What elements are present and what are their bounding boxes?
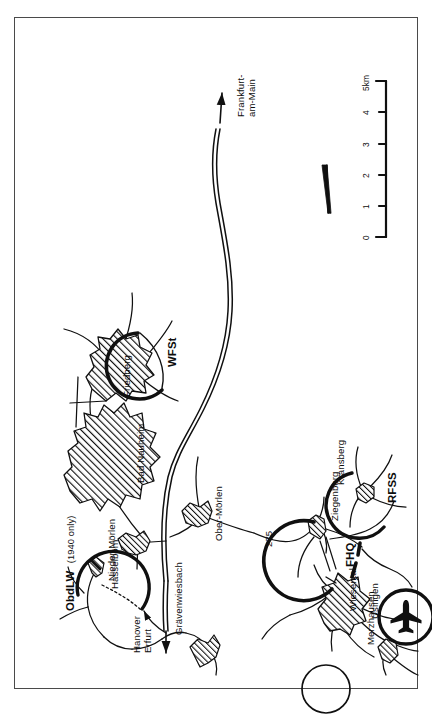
builtup-usingen: [318, 573, 370, 635]
place-label-ober-moerlen: Ober-Mörlen: [214, 486, 224, 541]
place-label-graevenwiesbach: Grävenwiesbach: [174, 562, 184, 635]
scale-tick-3: 3: [362, 142, 371, 147]
installation-label-obdlw: ObdLW: [64, 571, 76, 611]
installation-label-wfst: WFSt: [166, 338, 178, 368]
scale-bar: [376, 81, 386, 237]
autobahn-northwest: [163, 581, 168, 631]
figure-frame: Hanover Erfurt Frankfurt- am-Main Nieder…: [14, 17, 418, 689]
direction-label-hanover-erfurt: Hanover Erfurt: [132, 616, 154, 653]
arrow-frankfurt: [220, 93, 222, 123]
scale-tick-2: 2: [362, 173, 371, 178]
direction-label-frankfurt: Frankfurt- am-Main: [236, 74, 258, 117]
map-canvas: Hanover Erfurt Frankfurt- am-Main Nieder…: [14, 17, 418, 689]
direction-line-am-main: am-Main: [247, 74, 258, 117]
place-label-friedberg: Friedberg: [122, 355, 132, 397]
installation-label-obdlw-group: ObdLW (1940 only): [60, 516, 78, 611]
direction-line-erfurt: Erfurt: [143, 616, 154, 653]
installation-label-fhq: FHQ: [344, 543, 356, 567]
figure-page: Hanover Erfurt Frankfurt- am-Main Nieder…: [0, 0, 432, 723]
road-number-275: 275: [264, 531, 274, 547]
compass-baseline: [327, 165, 328, 213]
place-label-hasselborn: Hasselborn: [110, 539, 120, 589]
rotated-map-container: Hanover Erfurt Frankfurt- am-Main Nieder…: [14, 17, 418, 689]
place-label-merzhausen: Merzhausen: [366, 591, 376, 645]
compass-circle: [302, 665, 350, 713]
scale-tick-4: 4: [362, 110, 371, 115]
airplane-icon: [391, 600, 422, 633]
place-label-bad-nauheim: Bad Nauheim: [136, 424, 146, 483]
place-label-kransberg: Kransberg: [336, 440, 346, 485]
builtup-ober-moerlen: [182, 501, 212, 527]
scale-tick-1: 1: [362, 204, 371, 209]
builtup-kransberg: [356, 483, 374, 503]
place-label-wiesental: Wiesental: [348, 568, 358, 611]
installation-label-rfss: RFSS: [386, 472, 398, 503]
builtup-ziegenberg: [308, 515, 326, 539]
obdlw-dotted-leader: [102, 585, 142, 611]
installation-note-obdlw: (1940 only): [66, 516, 76, 564]
scale-unit-label: 5km: [362, 75, 371, 91]
scale-tick-0: 0: [362, 235, 371, 240]
